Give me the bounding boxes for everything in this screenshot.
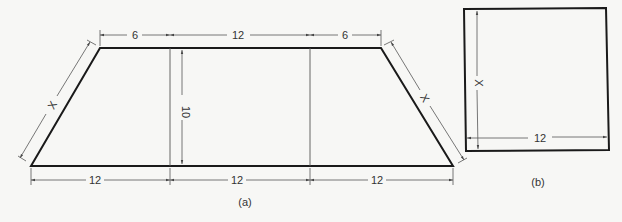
figure-b-width-label: 12	[534, 132, 546, 144]
figure-a-caption: (a)	[238, 196, 251, 208]
diagram-canvas: 6 12 6 10 X X 12 12 12 (a)	[0, 0, 622, 222]
left-slant-dimension	[18, 40, 96, 161]
bottom-middle-segment-label: 12	[231, 174, 243, 186]
height-label: 10	[180, 106, 192, 118]
figure-b-height-label: X	[473, 79, 485, 87]
left-slant-label: X	[45, 98, 59, 111]
right-slant-label: X	[418, 92, 432, 105]
bottom-right-segment-label: 12	[371, 174, 383, 186]
top-middle-segment-label: 12	[232, 29, 244, 41]
bottom-left-segment-label: 12	[89, 174, 101, 186]
top-right-segment-label: 6	[342, 29, 348, 41]
figure-a-trapezoid	[31, 48, 453, 166]
top-left-segment-label: 6	[132, 29, 138, 41]
figure-b-caption: (b)	[531, 176, 544, 188]
